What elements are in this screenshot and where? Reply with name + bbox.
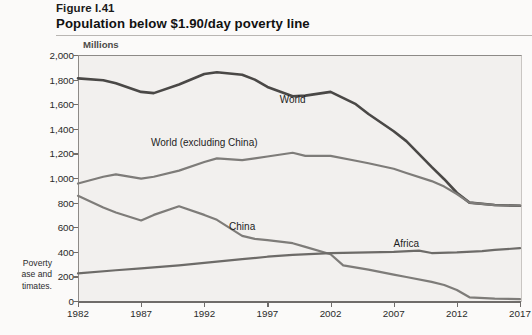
title-divider [56,35,532,36]
series-label-africa: Africa [394,238,420,249]
x-axis-tick-mark [331,302,332,307]
y-axis-tick-label: 1,200 [36,148,74,159]
y-axis-tick-label: 0 [36,296,74,307]
series-line-africa [78,248,520,273]
x-axis-tick-label: 2012 [446,308,468,319]
x-axis-tick-mark [394,302,395,307]
series-label-world-excluding-china: World (excluding China) [151,137,258,148]
x-axis-tick-mark [204,302,205,307]
x-axis-tick-mark [267,302,268,307]
series-line-world-excluding-china [78,153,520,206]
x-axis-tick-label: 2007 [383,308,405,319]
x-axis-tick-label: 2017 [509,308,531,319]
x-axis-tick-mark [457,302,458,307]
y-axis-tick-label: 1,400 [36,123,74,134]
y-axis-tick-label: 600 [36,222,74,233]
series-line-world [78,72,520,205]
x-axis-tick-label: 2002 [320,308,342,319]
series-label-world: World [280,94,306,105]
y-axis-tick-labels: 02004006008001,0001,2001,4001,6001,8002,… [30,0,74,335]
x-axis-tick-label: 1987 [130,308,152,319]
x-axis-tick-label: 1992 [193,308,215,319]
y-axis-tick-label: 400 [36,246,74,257]
x-axis-tick-mark [78,302,79,307]
x-axis-tick-label: 1997 [257,308,279,319]
chart-lines [78,55,520,302]
x-axis-tick-label: 1982 [67,308,89,319]
x-axis-tick-mark [520,302,521,307]
series-label-china: China [229,220,255,231]
x-axis-tick-mark [141,302,142,307]
y-axis-tick-label: 1,000 [36,173,74,184]
y-axis-tick-label: 1,800 [36,74,74,85]
y-axis-tick-label: 800 [36,197,74,208]
y-axis-units-label: Millions [83,39,119,50]
y-axis-tick-label: 200 [36,271,74,282]
series-line-china [78,196,520,299]
y-axis-tick-label: 2,000 [36,50,74,61]
y-axis-tick-label: 1,600 [36,99,74,110]
figure-title: Population below $1.90/day poverty line [56,16,310,31]
figure-page: in millions of people below the poverty … [0,0,532,335]
